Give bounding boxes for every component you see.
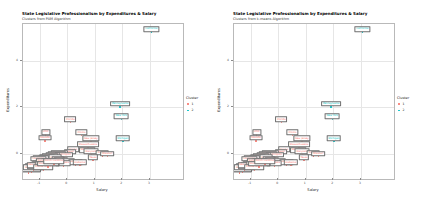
x-axis-tick — [94, 178, 95, 180]
legend-item[interactable]: 1 — [186, 102, 210, 106]
x-axis-tick — [250, 178, 251, 180]
point-label: Michigan — [116, 135, 131, 141]
gridline-horizontal — [234, 107, 394, 108]
point-label: New Jersey — [293, 135, 310, 141]
panel-kmeans: State Legislative Professionalism by Exp… — [211, 0, 421, 207]
point-label: California — [355, 26, 370, 32]
y-axis-tick-label: 4 — [16, 58, 18, 62]
x-axis-tick — [332, 178, 333, 180]
x-axis-tick-label: 2 — [120, 181, 122, 185]
y-axis-title: Expenditures — [6, 88, 10, 112]
legend-title: Cluster — [397, 96, 421, 100]
legend-item[interactable]: 1 — [397, 102, 421, 106]
point-label: New York — [114, 113, 129, 119]
point-label: Florida — [64, 117, 76, 123]
point-label: North Carolina — [254, 158, 275, 164]
panel-title: State Legislative Professionalism by Exp… — [22, 11, 156, 16]
x-axis-tick-label: 1 — [304, 181, 306, 185]
x-axis-tick-label: 3 — [359, 181, 361, 185]
x-axis-tick — [121, 178, 122, 180]
y-axis-tick-label: 0 — [227, 151, 229, 155]
x-axis-title: Salary — [307, 188, 318, 192]
gridline-vertical — [150, 24, 151, 179]
legend-label: 1 — [403, 102, 405, 106]
legend-dot-icon — [398, 110, 400, 112]
y-axis-tick — [20, 106, 22, 107]
point-label: Florida — [275, 117, 287, 123]
legend-item[interactable]: 2 — [397, 108, 421, 112]
point-label: Texas — [88, 154, 98, 160]
x-axis-tick — [66, 178, 67, 180]
point-label: Missouri — [101, 151, 115, 157]
legend-label: 2 — [192, 108, 194, 112]
gridline-horizontal — [23, 61, 183, 62]
point-label: Nevada — [250, 135, 263, 141]
point-label: Michigan — [327, 135, 342, 141]
x-axis-tick-label: 2 — [331, 181, 333, 185]
panel-subtitle: Clusters from PAM Algorithm — [22, 17, 71, 21]
point-label: Pennsylvania — [110, 101, 130, 107]
point-label: New York — [325, 113, 340, 119]
point-label: New Jersey — [82, 135, 99, 141]
legend-dot-icon — [398, 103, 400, 105]
point-label: Alabama — [284, 160, 298, 166]
legend-label: 1 — [192, 102, 194, 106]
gridline-horizontal — [234, 61, 394, 62]
plot-area: CaliforniaPennsylvaniaNew YorkMichiganFl… — [233, 23, 395, 180]
legend-title: Cluster — [186, 96, 210, 100]
y-axis-tick-label: 4 — [227, 58, 229, 62]
legend-dot-icon — [187, 110, 189, 112]
x-axis-tick — [39, 178, 40, 180]
point-label: Texas — [299, 154, 309, 160]
x-axis-tick-label: 0 — [65, 181, 67, 185]
x-axis-tick-label: 1 — [93, 181, 95, 185]
panel-pam: State Legislative Professionalism by Exp… — [0, 0, 210, 207]
y-axis-tick — [20, 60, 22, 61]
legend-swatch — [397, 108, 401, 112]
point-label: Illinois — [287, 129, 298, 135]
x-axis-tick-label: 3 — [148, 181, 150, 185]
gridline-vertical — [361, 24, 362, 179]
x-axis-tick — [149, 178, 150, 180]
y-axis-tick — [231, 153, 233, 154]
plot-area: CaliforniaPennsylvaniaNew YorkMichiganFl… — [22, 23, 184, 180]
point-label: North Carolina — [43, 158, 64, 164]
legend-dot-icon — [187, 103, 189, 105]
point-label: Missouri — [312, 151, 326, 157]
legend-swatch — [186, 108, 190, 112]
legend-item[interactable]: 2 — [186, 108, 210, 112]
legend: Cluster 12 — [186, 96, 210, 115]
legend-label: 2 — [403, 108, 405, 112]
y-axis-title: Expenditures — [217, 88, 221, 112]
legend-swatch — [186, 102, 190, 106]
y-axis-tick-label: 2 — [227, 104, 229, 108]
x-axis-tick — [305, 178, 306, 180]
point-label: Nevada — [39, 135, 52, 141]
x-axis-tick-label: -1 — [37, 181, 40, 185]
x-axis-tick-label: 0 — [276, 181, 278, 185]
figure-canvas: State Legislative Professionalism by Exp… — [0, 0, 421, 207]
point-label: Illinois — [76, 129, 87, 135]
legend: Cluster 12 — [397, 96, 421, 115]
x-axis-tick — [360, 178, 361, 180]
legend-swatch — [397, 102, 401, 106]
gridline-horizontal — [23, 107, 183, 108]
x-axis-tick — [277, 178, 278, 180]
panel-title: State Legislative Professionalism by Exp… — [233, 11, 367, 16]
panel-subtitle: Clusters from k-means Algorithm — [233, 17, 289, 21]
y-axis-tick-label: 2 — [16, 104, 18, 108]
point-label: California — [144, 26, 159, 32]
x-axis-tick-label: -1 — [248, 181, 251, 185]
y-axis-tick — [20, 153, 22, 154]
y-axis-tick — [231, 60, 233, 61]
y-axis-tick-label: 0 — [16, 151, 18, 155]
y-axis-tick — [231, 106, 233, 107]
x-axis-title: Salary — [96, 188, 107, 192]
point-label: Pennsylvania — [321, 101, 341, 107]
point-label: Alabama — [73, 160, 87, 166]
